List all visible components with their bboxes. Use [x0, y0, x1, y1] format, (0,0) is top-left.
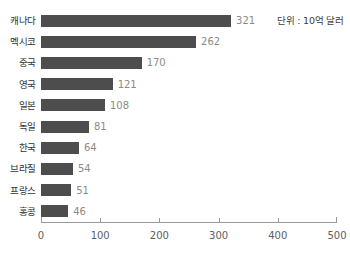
- bar-row: 홍콩46: [0, 201, 350, 222]
- x-axis-tick: [159, 218, 160, 222]
- x-axis-tick: [219, 218, 220, 222]
- bar-value-label: 262: [196, 31, 220, 52]
- x-axis-tick-label: 100: [91, 230, 110, 241]
- bar-row: 브라질54: [0, 158, 350, 179]
- x-axis-tick-label: 0: [38, 230, 44, 241]
- bar-value-label: 51: [71, 180, 89, 201]
- bar-value-label: 170: [142, 52, 166, 73]
- bar-row: 중국170: [0, 52, 350, 73]
- bar-track: 51: [41, 180, 350, 201]
- category-label: 한국: [0, 137, 36, 158]
- axis-cap-left: [41, 217, 42, 222]
- bar-value-label: 54: [73, 158, 91, 179]
- bar-row: 한국64: [0, 137, 350, 158]
- bar: [41, 121, 89, 133]
- bar: [41, 184, 71, 196]
- bar-track: 46: [41, 201, 350, 222]
- bar: [41, 99, 105, 111]
- x-axis-tick-label: 500: [327, 230, 346, 241]
- bar-value-label: 121: [113, 74, 137, 95]
- category-label: 홍콩: [0, 201, 36, 222]
- bar-track: 262: [41, 31, 350, 52]
- category-label: 일본: [0, 95, 36, 116]
- bar-row: 멕시코262: [0, 31, 350, 52]
- bar-rows: 캐나다321멕시코262중국170영국121일본108독일81한국64브라질54…: [0, 10, 350, 222]
- bar-track: 321: [41, 10, 350, 31]
- bar-track: 121: [41, 74, 350, 95]
- category-label: 영국: [0, 74, 36, 95]
- bar-row: 독일81: [0, 116, 350, 137]
- bar-chart: 단위 : 10억 달러 캐나다321멕시코262중국170영국121일본108독…: [0, 0, 350, 256]
- bar-value-label: 321: [231, 10, 255, 31]
- bar-row: 프랑스51: [0, 180, 350, 201]
- bar: [41, 57, 142, 69]
- bar-row: 영국121: [0, 74, 350, 95]
- axis-cap-right: [336, 217, 337, 222]
- x-axis-tick: [100, 218, 101, 222]
- category-label: 독일: [0, 116, 36, 137]
- bar: [41, 205, 68, 217]
- bar: [41, 78, 113, 90]
- bar: [41, 142, 79, 154]
- bar: [41, 163, 73, 175]
- bar: [41, 15, 231, 27]
- bar-row: 일본108: [0, 95, 350, 116]
- bar-value-label: 108: [105, 95, 129, 116]
- bar-track: 64: [41, 137, 350, 158]
- x-axis-tick-label: 400: [268, 230, 287, 241]
- bar: [41, 36, 196, 48]
- x-axis-tick: [278, 218, 279, 222]
- x-axis-line: [41, 222, 337, 223]
- bar-track: 81: [41, 116, 350, 137]
- category-label: 브라질: [0, 158, 36, 179]
- bar-value-label: 64: [79, 137, 97, 158]
- x-axis-tick-label: 300: [209, 230, 228, 241]
- bar-track: 108: [41, 95, 350, 116]
- bar-value-label: 81: [89, 116, 107, 137]
- category-label: 캐나다: [0, 10, 36, 31]
- bar-row: 캐나다321: [0, 10, 350, 31]
- category-label: 중국: [0, 52, 36, 73]
- bar-track: 54: [41, 158, 350, 179]
- category-label: 멕시코: [0, 31, 36, 52]
- category-label: 프랑스: [0, 180, 36, 201]
- bar-track: 170: [41, 52, 350, 73]
- x-axis-tick-label: 200: [150, 230, 169, 241]
- bar-value-label: 46: [68, 201, 86, 222]
